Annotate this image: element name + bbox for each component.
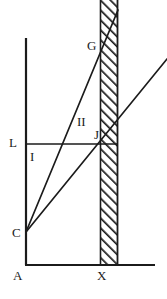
label-G: G: [87, 39, 96, 52]
hatched-band-fill: [100, 0, 118, 265]
ray-c-to-j: [26, 59, 167, 232]
label-A: A: [13, 269, 22, 282]
label-X: X: [97, 269, 106, 282]
geometry-diagram: L C A I II G J X: [0, 0, 167, 299]
label-L: L: [9, 136, 17, 149]
hatched-band: [100, 0, 118, 265]
diagram-canvas: [0, 0, 167, 299]
label-C: C: [12, 226, 21, 239]
label-region-II: II: [77, 115, 86, 128]
label-J: J: [94, 128, 99, 141]
label-region-I: I: [30, 150, 34, 163]
